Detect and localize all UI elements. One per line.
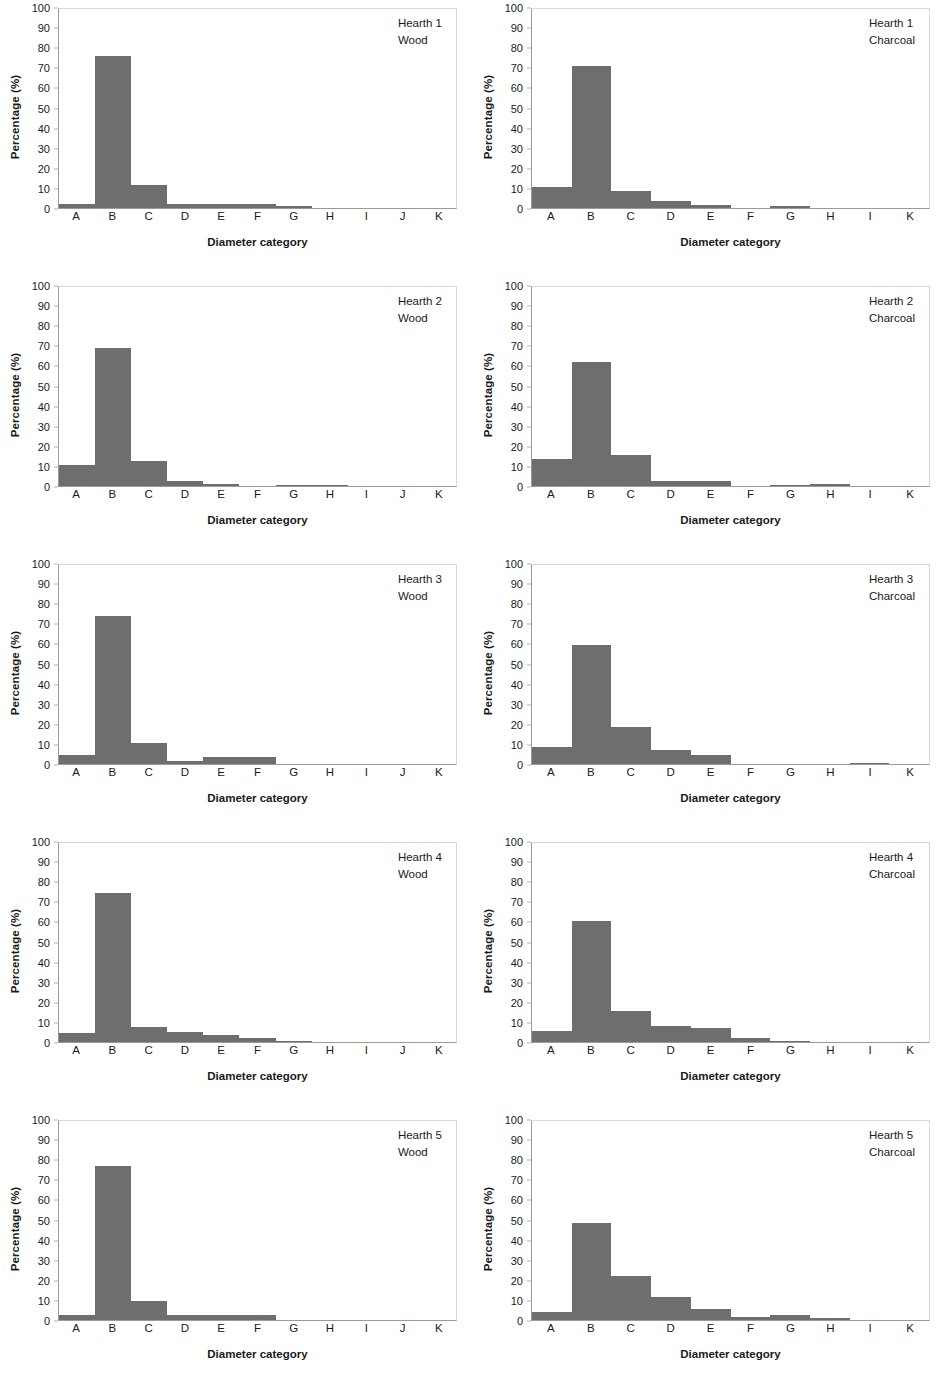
bar-G	[770, 206, 810, 208]
bar-series	[59, 9, 456, 208]
x-tick-label: J	[384, 1323, 420, 1335]
bar-D	[651, 1026, 691, 1042]
panel-annotation: Hearth 3Wood	[398, 571, 442, 604]
bar-C	[611, 191, 651, 208]
bar-B	[95, 1166, 131, 1320]
y-tick-label: 10	[511, 1017, 523, 1028]
y-tick-label: 80	[511, 321, 523, 332]
y-axis-label: Percentage (%)	[479, 564, 497, 782]
y-tick-label: 0	[517, 1038, 523, 1049]
x-axis-ticks: ABCDEFGHIJK	[58, 1323, 457, 1335]
y-tick-label: 20	[38, 163, 50, 174]
x-axis-ticks: ABCDEFGHIJK	[58, 211, 457, 223]
x-tick-label: A	[531, 1323, 571, 1335]
x-tick-label: J	[384, 1045, 420, 1057]
y-tick-label: 40	[38, 957, 50, 968]
material-subtitle: Charcoal	[869, 866, 915, 883]
x-tick-label: E	[691, 1323, 731, 1335]
y-tick-label: 40	[511, 123, 523, 134]
x-tick-label: K	[421, 1323, 457, 1335]
x-tick-label: K	[890, 489, 930, 501]
y-tick-label: 20	[38, 441, 50, 452]
chart-panel: Percentage (%)1009080706050403020100Hear…	[473, 0, 946, 278]
x-axis-ticks: ABCDEFGHIK	[531, 1045, 930, 1057]
bar-F	[239, 1315, 275, 1320]
bar-C	[611, 1276, 651, 1320]
y-axis-ticks: 1009080706050403020100	[24, 8, 54, 209]
y-tick-label: 60	[38, 639, 50, 650]
x-axis-label: Diameter category	[531, 1070, 930, 1082]
y-tick-label: 100	[32, 837, 50, 848]
x-tick-label: D	[651, 1045, 691, 1057]
panel-annotation: Hearth 4Charcoal	[869, 849, 915, 882]
bar-E	[691, 1028, 731, 1042]
x-tick-label: H	[810, 1045, 850, 1057]
y-tick-label: 70	[38, 619, 50, 630]
x-tick-label: B	[571, 1323, 611, 1335]
y-tick-label: 50	[38, 659, 50, 670]
x-tick-label: F	[731, 767, 771, 779]
y-tick-label: 60	[38, 1195, 50, 1206]
x-tick-label: E	[691, 1045, 731, 1057]
bar-E	[691, 481, 731, 486]
material-subtitle: Wood	[398, 310, 442, 327]
y-tick-label: 80	[38, 321, 50, 332]
y-tick-label: 50	[511, 381, 523, 392]
x-axis-label: Diameter category	[58, 236, 457, 248]
y-axis-label-text: Percentage (%)	[482, 909, 494, 993]
bar-D	[651, 750, 691, 764]
hearth-title: Hearth 4	[398, 849, 442, 866]
x-axis-label: Diameter category	[58, 1070, 457, 1082]
y-tick-label: 10	[38, 739, 50, 750]
y-tick-label: 50	[38, 937, 50, 948]
panel-annotation: Hearth 2Wood	[398, 293, 442, 326]
bar-E	[203, 204, 239, 208]
y-axis-label-text: Percentage (%)	[482, 1187, 494, 1271]
y-tick-label: 0	[44, 204, 50, 215]
y-axis-label: Percentage (%)	[479, 286, 497, 504]
bar-H	[312, 485, 348, 486]
bar-A	[59, 1033, 95, 1042]
x-tick-label: A	[58, 211, 94, 223]
y-axis-label-text: Percentage (%)	[482, 631, 494, 715]
panel-annotation: Hearth 1Wood	[398, 15, 442, 48]
y-tick-label: 10	[38, 1017, 50, 1028]
y-tick-label: 80	[511, 43, 523, 54]
y-axis-ticks: 1009080706050403020100	[24, 286, 54, 487]
chart-panel: Percentage (%)1009080706050403020100Hear…	[473, 1112, 946, 1394]
y-tick-label: 50	[511, 659, 523, 670]
y-axis-label: Percentage (%)	[6, 842, 24, 1060]
x-tick-label: J	[384, 767, 420, 779]
y-tick-label: 70	[38, 63, 50, 74]
y-tick-label: 30	[511, 421, 523, 432]
x-tick-label: C	[611, 1045, 651, 1057]
bar-A	[532, 1312, 572, 1320]
chart-panel: Percentage (%)1009080706050403020100Hear…	[0, 556, 473, 834]
x-tick-label: A	[58, 1045, 94, 1057]
x-tick-label: C	[131, 489, 167, 501]
plot-wrapper: Percentage (%)1009080706050403020100Hear…	[477, 1120, 940, 1338]
y-tick-label: 90	[38, 1135, 50, 1146]
y-tick-label: 80	[511, 1155, 523, 1166]
bar-D	[651, 201, 691, 208]
x-axis-ticks: ABCDEFGHIJK	[58, 767, 457, 779]
bar-E	[691, 205, 731, 208]
y-tick-label: 90	[38, 579, 50, 590]
y-axis-label: Percentage (%)	[479, 1120, 497, 1338]
x-tick-label: H	[810, 1323, 850, 1335]
x-tick-label: D	[651, 1323, 691, 1335]
x-tick-label: G	[770, 489, 810, 501]
x-tick-label: F	[239, 1323, 275, 1335]
plot-area: Hearth 2Wood	[58, 286, 457, 487]
y-axis-label: Percentage (%)	[479, 8, 497, 226]
y-axis-ticks: 1009080706050403020100	[24, 842, 54, 1043]
chart-panel: Percentage (%)1009080706050403020100Hear…	[0, 834, 473, 1112]
bar-H	[810, 484, 850, 486]
x-tick-label: I	[348, 1323, 384, 1335]
y-tick-label: 30	[511, 699, 523, 710]
y-tick-label: 20	[511, 719, 523, 730]
y-tick-label: 10	[511, 183, 523, 194]
hearth-title: Hearth 5	[398, 1127, 442, 1144]
bar-B	[572, 362, 612, 486]
y-tick-label: 10	[38, 461, 50, 472]
